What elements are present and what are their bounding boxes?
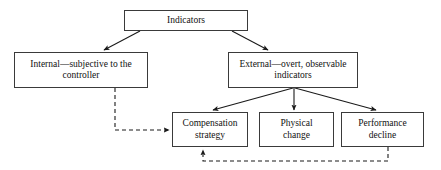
- node-compensation-strategy-label: Compensation strategy: [179, 118, 242, 140]
- node-physical-change-label: Physical change: [276, 118, 316, 140]
- diagram-canvas: Indicators Internal—subjective to the co…: [0, 0, 441, 170]
- node-external[interactable]: External—overt, observable indicators: [228, 52, 358, 88]
- node-internal-label: Internal—subjective to the controller: [26, 59, 135, 81]
- edge-performance-to-compensation: [203, 147, 388, 161]
- node-compensation-strategy[interactable]: Compensation strategy: [172, 112, 248, 147]
- node-external-label: External—overt, observable indicators: [235, 59, 350, 81]
- node-indicators[interactable]: Indicators: [124, 10, 248, 31]
- edge-external-to-performance: [295, 88, 376, 110]
- node-performance-decline[interactable]: Performance decline: [341, 112, 424, 147]
- node-performance-decline-label: Performance decline: [354, 118, 411, 140]
- edge-external-to-compensation: [213, 88, 293, 110]
- edge-internal-to-compensation: [115, 88, 169, 130]
- edge-indicators-to-internal: [104, 31, 140, 50]
- edge-indicators-to-external: [232, 31, 268, 50]
- node-internal[interactable]: Internal—subjective to the controller: [14, 52, 148, 88]
- node-indicators-label: Indicators: [163, 15, 209, 26]
- node-physical-change[interactable]: Physical change: [259, 112, 334, 147]
